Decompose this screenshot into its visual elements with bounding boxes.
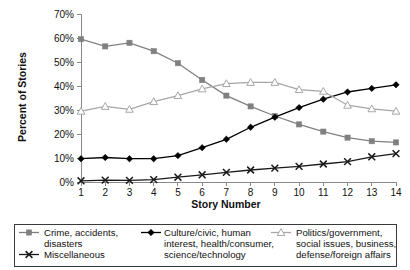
data-point-marker-triangle — [344, 101, 352, 108]
y-tick-label: 30% — [54, 105, 74, 116]
data-point-marker-diamond — [369, 85, 375, 91]
legend-entry-3[interactable]: Politics/government,social issues, busin… — [271, 227, 396, 260]
data-point-marker-diamond — [344, 89, 350, 95]
legend-label-line: defense/foreign affairs — [296, 249, 391, 260]
y-tick-label: 10% — [54, 153, 74, 164]
legend-entry-0[interactable]: Crime, accidents,disasters — [19, 227, 118, 249]
data-point-marker-diamond — [126, 156, 132, 162]
data-point-marker-square — [175, 61, 180, 66]
data-point-marker-square — [127, 40, 132, 45]
x-axis-title: Story Number — [191, 198, 260, 210]
data-point-marker-diamond — [148, 229, 154, 235]
series-3 — [78, 150, 400, 184]
data-series-group — [77, 37, 400, 185]
data-point-marker-square — [224, 93, 229, 98]
data-point-marker-diamond — [223, 136, 229, 142]
x-tick-label: 8 — [248, 187, 254, 198]
data-point-marker-square — [369, 139, 374, 144]
legend-label-line: disasters — [44, 238, 83, 249]
data-point-marker-diamond — [393, 82, 399, 88]
data-point-marker-square — [248, 104, 253, 109]
legend-label-line: Crime, accidents, — [44, 227, 118, 238]
legend-label-line: Culture/civic, human — [164, 227, 251, 238]
data-point-marker-square — [321, 129, 326, 134]
data-point-marker-square — [345, 135, 350, 140]
y-tick-label: 0% — [60, 177, 75, 188]
line-chart-svg: Percent of Stories 0%10%20%30%40%50%60%7… — [0, 0, 410, 270]
legend-entry-2[interactable]: Culture/civic, humaninterest, health/con… — [141, 227, 274, 260]
data-point-marker-square — [26, 230, 31, 235]
data-point-marker-square — [296, 122, 301, 127]
legend-label-line: Politics/government, — [296, 227, 382, 238]
x-tick-label: 12 — [342, 187, 354, 198]
x-tick-label: 11 — [318, 187, 329, 198]
series-line — [81, 85, 396, 159]
data-point-marker-diamond — [150, 156, 156, 162]
x-tick-label: 7 — [224, 187, 230, 198]
y-tick-label: 70% — [54, 9, 74, 20]
x-tick-label: 1 — [78, 187, 84, 198]
x-tick-label: 10 — [294, 187, 306, 198]
y-tick-label: 60% — [54, 33, 74, 44]
x-axis-tick-labels: 1234567891011121314 — [78, 187, 402, 198]
x-tick-label: 2 — [102, 187, 108, 198]
data-point-marker-diamond — [102, 154, 108, 160]
x-tick-label: 14 — [390, 187, 402, 198]
data-point-marker-diamond — [199, 144, 205, 150]
data-point-marker-diamond — [247, 124, 253, 130]
data-point-marker-square — [393, 140, 398, 145]
legend-label-line: Miscellaneous — [44, 249, 105, 260]
data-point-marker-square — [78, 37, 83, 42]
chart-figure: Percent of Stories 0%10%20%30%40%50%60%7… — [0, 0, 410, 270]
y-axis-title: Percent of Stories — [16, 52, 28, 142]
x-tick-label: 3 — [127, 187, 133, 198]
legend-entry-1[interactable]: Miscellaneous — [19, 249, 105, 260]
x-tick-label: 13 — [366, 187, 378, 198]
data-point-marker-diamond — [175, 152, 181, 158]
data-point-marker-square — [200, 77, 205, 82]
legend-label-line: interest, health/consumer, — [164, 238, 274, 249]
chart-legend: Crime, accidents,disastersMiscellaneousC… — [14, 224, 396, 266]
series-1 — [78, 82, 399, 162]
x-tick-label: 4 — [151, 187, 157, 198]
y-tick-label: 50% — [54, 57, 74, 68]
x-tick-label: 9 — [272, 187, 278, 198]
y-axis-tick-labels: 0%10%20%30%40%50%60%70% — [54, 9, 74, 188]
x-tick-label: 6 — [199, 187, 205, 198]
series-0 — [78, 37, 398, 145]
data-point-marker-square — [151, 49, 156, 54]
data-point-marker-triangle — [101, 103, 109, 110]
y-tick-label: 20% — [54, 129, 74, 140]
series-2 — [77, 79, 400, 115]
data-point-marker-square — [103, 44, 108, 49]
data-point-marker-diamond — [296, 104, 302, 110]
legend-label-line: science/technology — [164, 249, 246, 260]
data-point-marker-diamond — [78, 156, 84, 162]
data-point-marker-diamond — [320, 96, 326, 102]
y-tick-label: 40% — [54, 81, 74, 92]
legend-label-line: social issues, business, — [296, 238, 396, 249]
x-tick-label: 5 — [175, 187, 181, 198]
